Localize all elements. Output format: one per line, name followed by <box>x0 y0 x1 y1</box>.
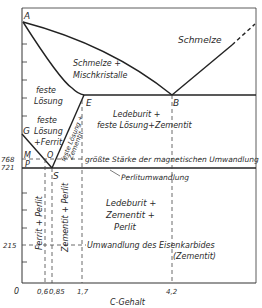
region-ledeburit-lower-3: Perlit <box>114 222 137 232</box>
region-feste-ferrit-2: Lösung <box>34 127 63 136</box>
y-label-768: 768 <box>1 156 15 164</box>
region-ledeburit-upper-1: Ledeburit + <box>113 110 160 119</box>
liquidus-b-right <box>172 45 232 95</box>
x-label-4-2: 4,2 <box>166 288 178 296</box>
point-s: S <box>53 171 59 181</box>
point-a: A <box>23 11 30 21</box>
region-ledeburit-upper-2: feste Lösung+Zementit <box>97 121 192 130</box>
region-feste-ferrit-3: +Ferrit <box>34 138 63 147</box>
region-schmelze: Schmelze <box>178 35 222 45</box>
region-ferrit-perlit: Ferrit + Perlit <box>35 195 44 250</box>
region-zementit-perlit: Zementit + Perlit <box>61 182 70 253</box>
region-feste-loesung-1: feste <box>36 86 56 95</box>
point-e: E <box>86 98 92 108</box>
region-schmelze-misch-2: Mischkristalle <box>73 71 128 80</box>
region-schmelze-misch-1: Schmelze + <box>73 59 121 68</box>
region-perlit-umwandlung: Perlitumwandlung <box>121 173 189 182</box>
x-label-1-7: 1,7 <box>77 288 89 296</box>
x-axis-title: C-Gehalt <box>110 298 146 307</box>
y-label-215: 215 <box>3 242 17 250</box>
region-ledeburit-lower-2: Zementit + <box>105 210 155 220</box>
region-magnetic: größte Stärke der magnetischen Umwandlun… <box>85 155 259 164</box>
x-label-0-85: 0,85 <box>49 288 65 296</box>
region-eisenkarbide-1: Umwandlung des Eisenkarbides <box>87 241 215 250</box>
y-label-721: 721 <box>1 164 14 172</box>
x-label-0: 0 <box>14 287 19 296</box>
point-g: G <box>23 126 30 136</box>
point-o: O <box>47 151 53 160</box>
region-feste-loesung-2: Lösung <box>34 97 63 106</box>
point-p: P <box>25 160 30 169</box>
region-feste-ferrit-1: feste <box>37 116 57 125</box>
perlit-leader <box>110 170 120 176</box>
iron-carbon-phase-diagram: A B E G M O P S 768 721 215 0 0,6 0,85 1… <box>0 0 262 308</box>
point-b: B <box>173 98 179 108</box>
region-eisenkarbide-2: (Zementit) <box>173 252 216 261</box>
x-label-0-6: 0,6 <box>37 288 49 296</box>
liquidus-dashed <box>232 24 255 45</box>
point-m: M <box>24 151 31 160</box>
region-ledeburit-lower-1: Ledeburit + <box>106 198 156 208</box>
